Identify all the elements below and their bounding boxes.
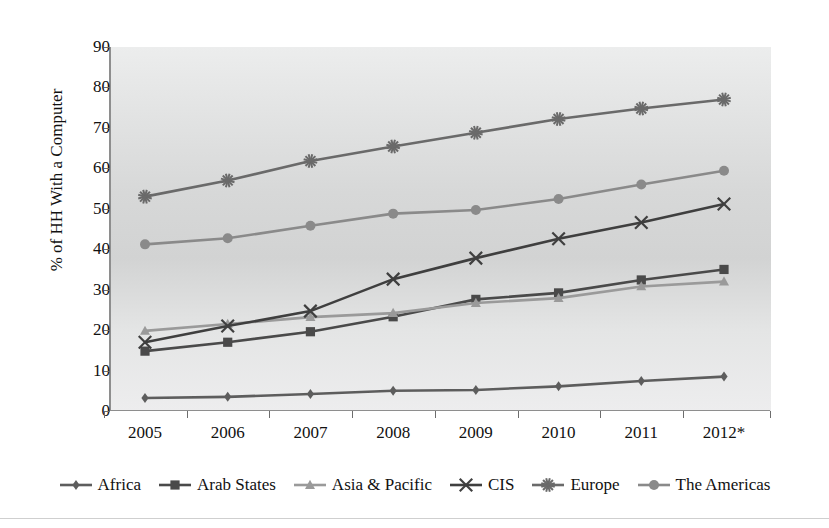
data-point-diamond [72,480,79,490]
legend-marker-triangle-icon [293,477,327,493]
legend-marker-diamond-icon [59,477,93,493]
legend-item-the-americas[interactable]: The Americas [637,475,771,495]
y-tick-mark [104,47,110,48]
chart-container: 0102030405060708090 20052006200720082009… [0,0,829,528]
y-tick-mark [104,128,110,129]
legend-item-asia-pacific[interactable]: Asia & Pacific [293,475,432,495]
y-axis-line [109,47,110,411]
y-tick-mark [104,209,110,210]
x-tick-label: 2005 [100,423,190,443]
x-tick-mark [187,411,188,418]
y-tick-mark [104,330,110,331]
legend-marker-square-icon [158,477,192,493]
legend-item-europe[interactable]: Europe [531,475,619,495]
x-tick-mark [683,411,684,418]
legend-item-arab-states[interactable]: Arab States [158,475,276,495]
legend-label: The Americas [676,475,771,495]
x-tick-mark [104,411,105,418]
x-tick-label: 2008 [348,423,438,443]
bottom-divider [0,518,829,519]
data-point-circle [649,480,659,490]
chart-legend: AfricaArab StatesAsia & PacificCISEurope… [0,468,829,502]
x-tick-label: 2007 [265,423,355,443]
legend-label: Africa [98,475,141,495]
y-tick-mark [104,168,110,169]
y-tick-mark [104,249,110,250]
x-tick-label: 2011 [596,423,686,443]
legend-marker-x-icon [449,477,483,493]
x-tick-mark [352,411,353,418]
legend-item-cis[interactable]: CIS [449,475,514,495]
legend-label: CIS [488,475,514,495]
x-axis-line [110,410,770,411]
legend-marker-star-icon [531,477,565,493]
legend-marker-circle-icon [637,477,671,493]
x-tick-mark [518,411,519,418]
data-point-square [170,480,179,489]
x-tick-mark [770,411,771,418]
x-tick-label: 2006 [183,423,273,443]
legend-label: Arab States [197,475,276,495]
legend-label: Europe [570,475,619,495]
plot-area [110,47,771,411]
y-tick-mark [104,290,110,291]
y-tick-mark [104,371,110,372]
x-tick-label: 2010 [514,423,604,443]
x-tick-label: 2012* [679,423,769,443]
y-tick-mark [104,87,110,88]
legend-item-africa[interactable]: Africa [59,475,141,495]
x-tick-label: 2009 [431,423,521,443]
y-axis-title: % of HH With a Computer [47,55,67,305]
x-tick-mark [600,411,601,418]
x-tick-mark [269,411,270,418]
legend-label: Asia & Pacific [332,475,432,495]
x-tick-mark [435,411,436,418]
